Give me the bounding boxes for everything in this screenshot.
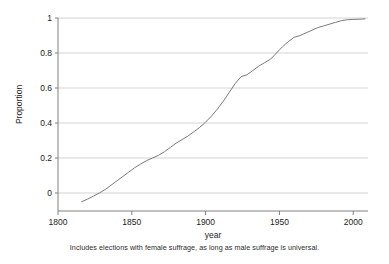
y-tick-label: 1 [47, 13, 52, 23]
x-axis-title: year [205, 230, 222, 240]
chart-container: 00.20.40.60.8118001850190019502000yearPr… [0, 0, 389, 264]
line-chart: 00.20.40.60.8118001850190019502000yearPr… [0, 0, 389, 240]
y-tick-label: 0.2 [40, 153, 52, 163]
x-tick-label: 1900 [196, 217, 215, 227]
chart-caption: Includes elections with female suffrage,… [0, 243, 389, 252]
x-tick-label: 1850 [122, 217, 141, 227]
y-tick-label: 0.4 [40, 118, 52, 128]
y-tick-label: 0.6 [40, 83, 52, 93]
y-tick-label: 0 [47, 188, 52, 198]
y-tick-label: 0.8 [40, 48, 52, 58]
x-tick-label: 1950 [270, 217, 289, 227]
series-line-0 [82, 19, 365, 202]
y-axis-title: Proportion [14, 85, 24, 124]
x-tick-label: 1800 [49, 217, 68, 227]
x-tick-label: 2000 [344, 217, 363, 227]
